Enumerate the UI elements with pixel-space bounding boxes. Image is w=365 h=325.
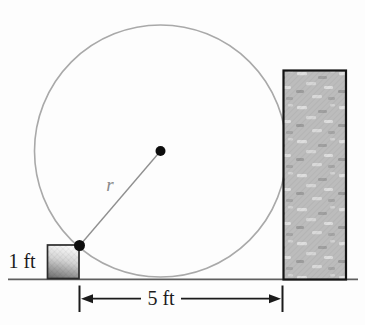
center-dot bbox=[156, 146, 166, 156]
distance-label: 5 ft bbox=[147, 287, 175, 309]
geometry-diagram: 1 ft r 5 ft bbox=[0, 0, 365, 325]
tangent-dot bbox=[74, 240, 85, 251]
diagram-canvas: 1 ft r 5 ft bbox=[0, 0, 365, 325]
dimension-arrowhead-left bbox=[81, 294, 93, 303]
block-height-label: 1 ft bbox=[8, 250, 36, 272]
wall bbox=[284, 71, 347, 280]
block bbox=[48, 245, 80, 279]
radius-label: r bbox=[106, 174, 114, 195]
dimension-5ft bbox=[80, 286, 283, 313]
dimension-arrowhead-right bbox=[269, 294, 281, 303]
